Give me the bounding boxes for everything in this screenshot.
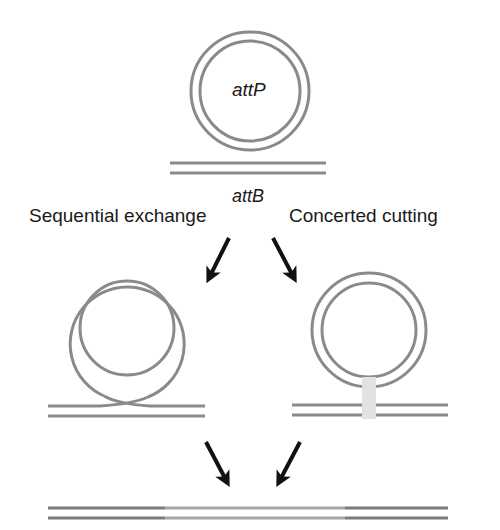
attp-label: attP: [232, 79, 266, 101]
sequential-exchange-label: Sequential exchange: [29, 205, 206, 227]
attb-duplex: [170, 163, 326, 173]
sequential-exchange-intermediate: [48, 281, 205, 416]
product-duplex: [48, 508, 448, 518]
concerted-cutting-intermediate: [292, 273, 448, 419]
attb-label: attB: [232, 186, 264, 207]
cut-region-block: [362, 377, 376, 419]
arrow-from-sequential-icon: [206, 442, 226, 480]
concerted-cutting-label: Concerted cutting: [289, 205, 438, 227]
arrow-to-sequential-icon: [210, 238, 229, 276]
arrow-to-concerted-icon: [273, 238, 293, 276]
arrow-from-concerted-icon: [280, 442, 300, 480]
